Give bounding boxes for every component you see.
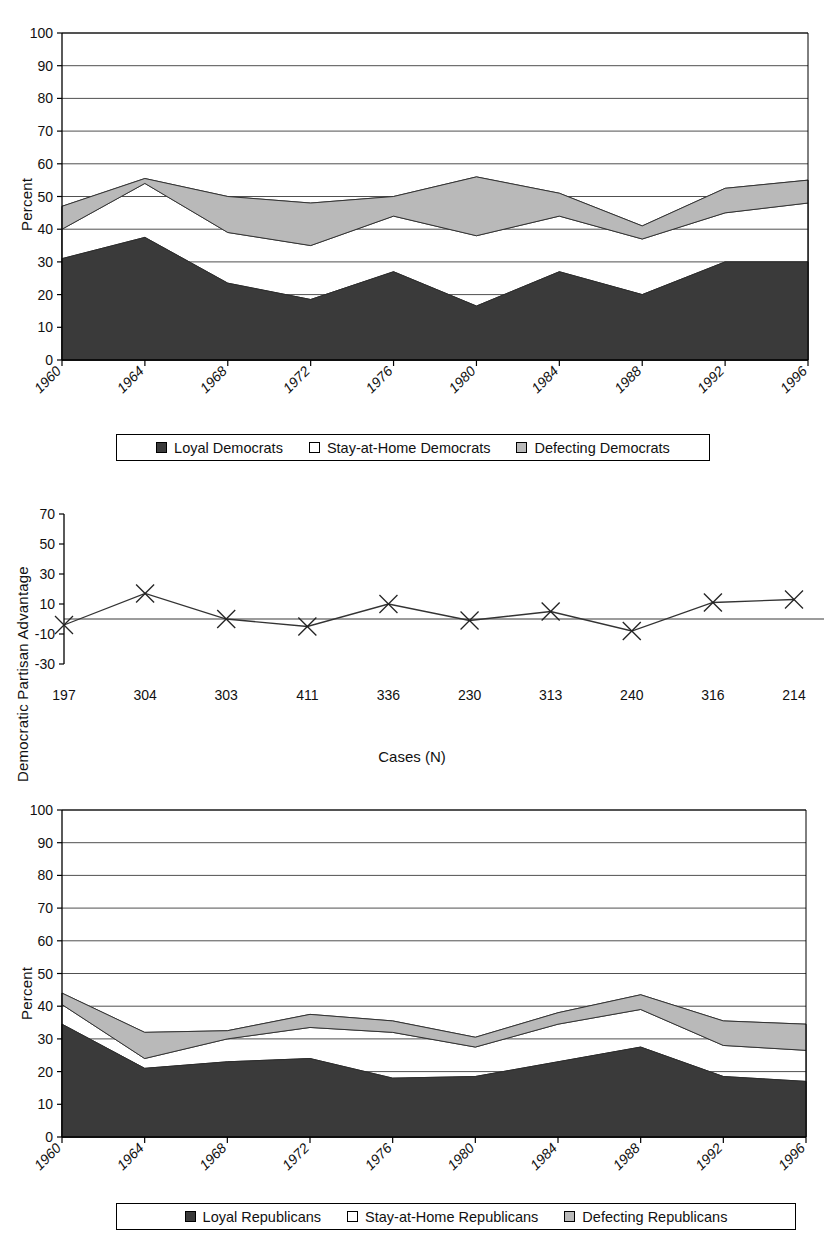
legend-democrats: Loyal Democrats Stay-at-Home Democrats D… (116, 434, 710, 461)
case-count-label: 303 (215, 687, 239, 703)
data-point-marker (379, 595, 397, 613)
republicans-plot-area: 0102030405060708090100196019641968197219… (0, 802, 824, 1202)
figure-root: Percent 01020304050607080901001960196419… (0, 0, 824, 1239)
legend-item-defecting-republicans: Defecting Republicans (564, 1209, 727, 1225)
x-tick-label: 1960 (31, 1140, 64, 1173)
y-tick-label: 50 (37, 966, 53, 982)
empty-square-icon (347, 1211, 358, 1222)
gray-square-icon (516, 442, 527, 453)
case-count-label: 336 (377, 687, 401, 703)
y-tick-label: 20 (37, 287, 53, 303)
x-tick-label: 1980 (444, 1140, 477, 1173)
y-tick-label: 30 (37, 1031, 53, 1047)
filled-square-icon (156, 442, 167, 453)
filled-square-icon (185, 1211, 196, 1222)
legend-label: Loyal Democrats (174, 440, 283, 456)
y-tick-label: 90 (37, 58, 53, 74)
legend-item-stay-at-home-democrats: Stay-at-Home Democrats (309, 440, 491, 456)
y-tick-label: 40 (37, 221, 53, 237)
x-tick-label: 1968 (197, 363, 230, 396)
y-tick-label: 70 (39, 506, 55, 522)
y-tick-label: 50 (37, 189, 53, 205)
y-tick-label: 100 (30, 802, 54, 818)
chart-democrats-composition: Percent 01020304050607080901001960196419… (0, 6, 824, 466)
legend-label: Loyal Republicans (203, 1209, 322, 1225)
y-tick-label: 20 (37, 1064, 53, 1080)
case-count-label: 197 (52, 687, 76, 703)
data-point-marker (623, 622, 641, 640)
chart-democratic-partisan-advantage: Democratic Partisan Advantage -30-101030… (0, 492, 824, 792)
y-tick-label: 10 (39, 596, 55, 612)
legend-label: Defecting Republicans (582, 1209, 727, 1225)
x-tick-label: 1988 (609, 1140, 642, 1173)
y-tick-label: 90 (37, 835, 53, 851)
data-point-marker (461, 612, 479, 630)
x-tick-label: 1972 (279, 363, 312, 396)
y-tick-label: 10 (37, 1096, 53, 1112)
y-axis-title: Percent (18, 967, 35, 1020)
case-count-label: 230 (458, 687, 482, 703)
y-tick-label: 70 (37, 123, 53, 139)
y-tick-label: 80 (37, 90, 53, 106)
x-tick-label: 1972 (279, 1140, 312, 1173)
y-tick-label: 40 (37, 998, 53, 1014)
case-count-label: 316 (701, 687, 725, 703)
y-tick-label: 10 (37, 319, 53, 335)
case-count-label: 304 (133, 687, 157, 703)
x-tick-label: 1984 (528, 363, 561, 396)
x-tick-label: 1992 (692, 1140, 725, 1173)
y-axis-title: Percent (18, 178, 35, 231)
x-tick-label: 1992 (694, 363, 727, 396)
x-tick-label: 1996 (777, 363, 810, 396)
legend-label: Defecting Democrats (534, 440, 669, 456)
x-tick-label: 1996 (775, 1140, 808, 1173)
y-tick-label: 30 (39, 566, 55, 582)
case-count-label: 240 (620, 687, 644, 703)
x-tick-label: 1976 (361, 1140, 394, 1173)
legend-republicans: Loyal Republicans Stay-at-Home Republica… (116, 1203, 796, 1230)
case-count-label: 411 (296, 687, 319, 703)
gray-square-icon (564, 1211, 575, 1222)
x-tick-label: 1964 (114, 363, 147, 396)
y-tick-label: 80 (37, 867, 53, 883)
x-tick-label: 1988 (611, 363, 644, 396)
empty-square-icon (309, 442, 320, 453)
y-tick-label: 60 (37, 156, 53, 172)
y-tick-label: 60 (37, 933, 53, 949)
advantage-plot-area: -30-101030507019730430341133623031324031… (0, 492, 824, 742)
x-tick-label: 1980 (445, 363, 478, 396)
y-tick-label: 30 (37, 254, 53, 270)
x-tick-label: 1984 (527, 1140, 560, 1173)
data-point-marker (542, 603, 560, 621)
x-tick-label: 1968 (196, 1140, 229, 1173)
x-axis-title: Cases (N) (0, 748, 824, 765)
legend-label: Stay-at-Home Republicans (365, 1209, 538, 1225)
democrats-plot-area: 0102030405060708090100196019641968197219… (0, 6, 824, 426)
y-tick-label: 100 (30, 25, 54, 41)
legend-item-loyal-democrats: Loyal Democrats (156, 440, 283, 456)
y-tick-label: 50 (39, 536, 55, 552)
y-tick-label: -10 (35, 626, 55, 642)
legend-label: Stay-at-Home Democrats (327, 440, 491, 456)
advantage-line (64, 594, 794, 632)
chart-republicans-composition: Percent 01020304050607080901001960196419… (0, 802, 824, 1239)
x-tick-label: 1964 (113, 1140, 146, 1173)
data-point-marker (136, 585, 154, 603)
case-count-label: 313 (539, 687, 563, 703)
x-tick-label: 1960 (31, 363, 64, 396)
legend-item-defecting-democrats: Defecting Democrats (516, 440, 669, 456)
y-tick-label: 70 (37, 900, 53, 916)
x-tick-label: 1976 (362, 363, 395, 396)
legend-item-loyal-republicans: Loyal Republicans (185, 1209, 322, 1225)
case-count-label: 214 (782, 687, 806, 703)
legend-item-stay-at-home-republicans: Stay-at-Home Republicans (347, 1209, 538, 1225)
y-tick-label: -30 (35, 656, 55, 672)
